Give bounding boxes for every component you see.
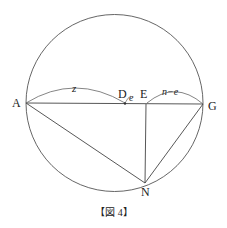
geometry-figure: A D e E n−e z G N 【図 4】 [0, 0, 227, 228]
segment-AG [26, 103, 203, 104]
label-G: G [208, 99, 217, 113]
segment-AN [26, 103, 145, 183]
segment-GN [145, 104, 203, 183]
label-A: A [12, 96, 21, 110]
label-z: z [71, 82, 77, 94]
segment-EN [145, 104, 146, 183]
label-N: N [141, 185, 150, 199]
label-E: E [140, 87, 147, 101]
label-e: e [129, 92, 134, 103]
figure-caption: 【図 4】 [95, 207, 133, 218]
label-D: D [118, 87, 127, 101]
point-D [124, 102, 126, 104]
label-n-e: n−e [162, 86, 179, 97]
